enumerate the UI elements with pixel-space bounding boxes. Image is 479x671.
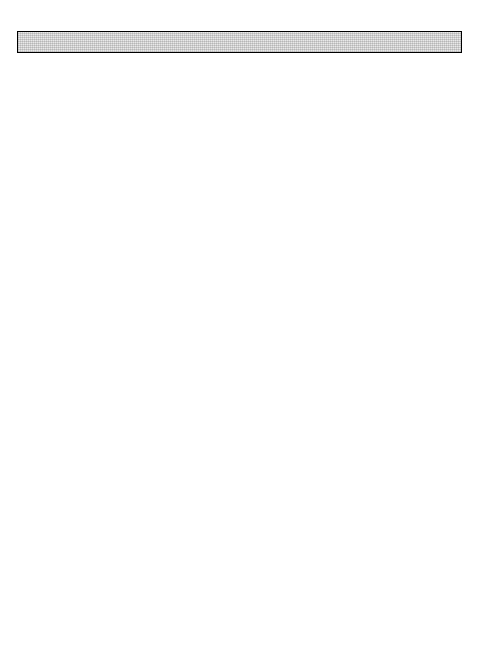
chart-upper-1973-1975 <box>0 62 479 392</box>
chart-upper-canvas <box>0 62 479 392</box>
chart-lower-1976-1978 <box>0 400 479 671</box>
chart-lower-canvas <box>0 400 479 671</box>
running-header <box>17 31 462 53</box>
